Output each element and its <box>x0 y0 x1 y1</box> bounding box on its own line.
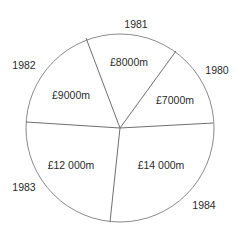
year-label-1982: 1982 <box>12 60 35 71</box>
value-label-1981: £8000m <box>110 57 148 68</box>
value-label-1983: £12 000m <box>48 160 95 171</box>
year-label-1984: 1984 <box>192 200 215 211</box>
value-label-1980: £7000m <box>156 95 194 106</box>
value-label-1984: £14 000m <box>138 160 185 171</box>
year-label-1981: 1981 <box>124 19 147 30</box>
year-label-1983: 1983 <box>12 182 35 193</box>
year-label-1980: 1980 <box>205 65 228 76</box>
value-label-1982: £9000m <box>52 90 90 101</box>
